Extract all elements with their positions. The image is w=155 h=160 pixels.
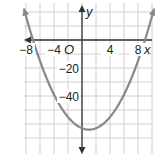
x-tick-label: −8 xyxy=(19,43,33,57)
y-tick-label: −40 xyxy=(59,90,80,104)
x-axis-label: x xyxy=(143,42,151,57)
parabola-chart: −8−448−20−40Oyx xyxy=(0,0,155,160)
x-tick-label: 8 xyxy=(135,43,142,57)
origin-label: O xyxy=(64,42,74,57)
x-tick-label: −4 xyxy=(47,43,61,57)
y-tick-label: −20 xyxy=(59,62,80,76)
x-tick-label: 4 xyxy=(107,43,114,57)
grid xyxy=(24,3,152,154)
